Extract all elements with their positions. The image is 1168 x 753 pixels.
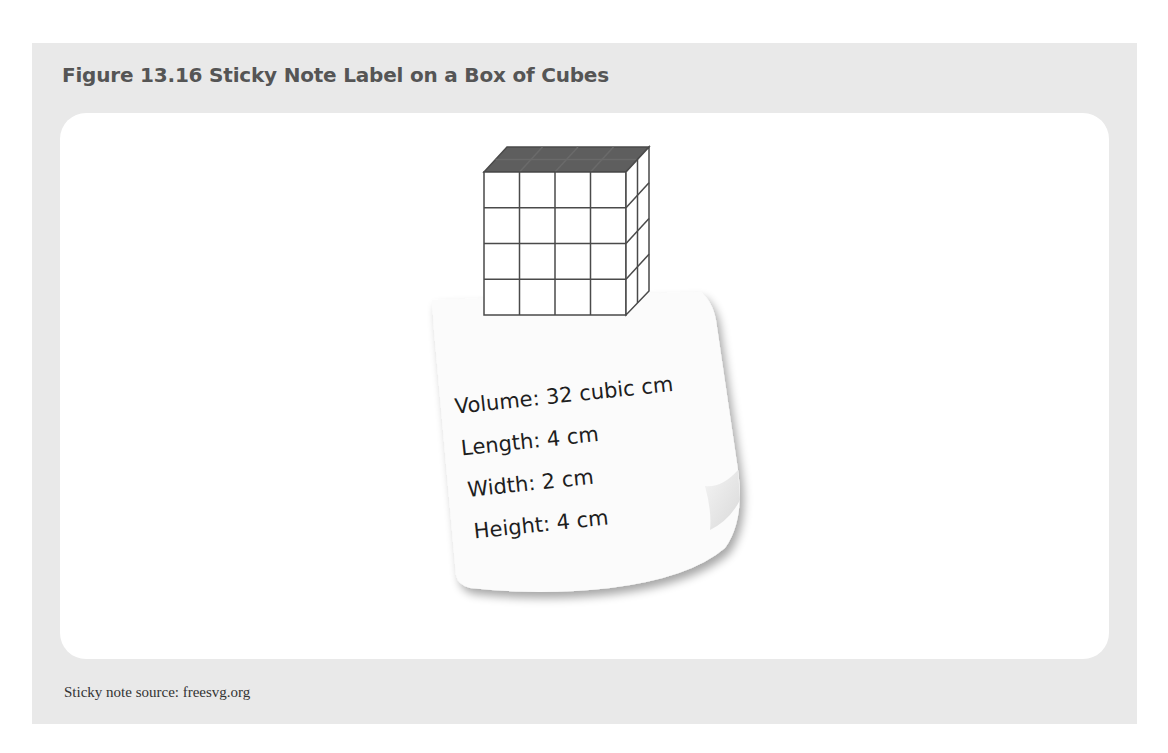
sticky-note: Volume: 32 cubic cm Length: 4 cm Width: … [432, 292, 740, 592]
cube-box [484, 147, 649, 315]
figure-illustration: Volume: 32 cubic cm Length: 4 cm Width: … [0, 0, 1168, 753]
